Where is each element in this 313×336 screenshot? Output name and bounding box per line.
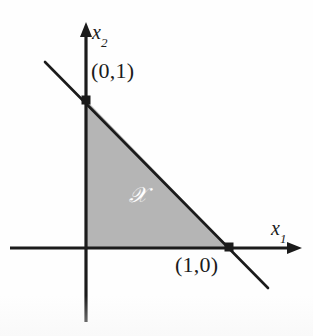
up-arrow-icon bbox=[80, 22, 92, 37]
y-axis-label-subscript: 2 bbox=[101, 35, 108, 50]
feasible-region-diagram bbox=[0, 0, 313, 336]
right-arrow-icon bbox=[287, 242, 302, 254]
figure-canvas: x2 x1 (0,1) (1,0) 𝒳 bbox=[0, 0, 313, 336]
point-label-1-0: (1,0) bbox=[175, 254, 218, 276]
point-label-0-1: (0,1) bbox=[91, 60, 134, 82]
y-axis-label: x2 bbox=[92, 22, 107, 46]
feasible-region-label: 𝒳 bbox=[129, 185, 147, 206]
y-axis-label-base: x bbox=[92, 21, 101, 43]
boundary-line bbox=[45, 62, 268, 288]
x-axis-label-base: x bbox=[271, 217, 280, 239]
vertex-marker-0-1 bbox=[82, 96, 91, 105]
x-axis-label-subscript: 1 bbox=[280, 231, 287, 246]
x-axis-label: x1 bbox=[271, 218, 286, 242]
vertex-marker-1-0 bbox=[225, 243, 234, 252]
